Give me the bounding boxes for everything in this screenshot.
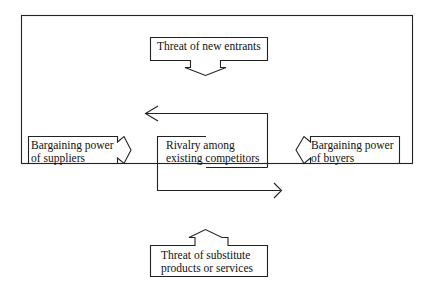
- center-node-label-1: Rivalry among: [166, 139, 235, 152]
- left-node-label-1: Bargaining power: [31, 139, 114, 152]
- right-node-label-1: Bargaining power: [311, 139, 394, 152]
- center-node-label-2: existing competitors: [166, 152, 260, 165]
- left-node-label-2: of suppliers: [31, 152, 85, 165]
- bottom-node-label-2: products or services: [161, 262, 253, 275]
- bottom-node-label-1: Threat of substitute: [161, 249, 250, 262]
- top-node-label: Threat of new entrants: [157, 40, 261, 53]
- right-node-label-2: of buyers: [311, 152, 354, 165]
